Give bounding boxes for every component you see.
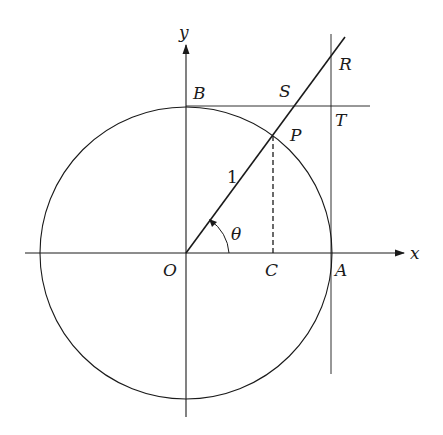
angle-theta-label: θ — [231, 224, 241, 244]
x-axis-label: x — [410, 243, 420, 263]
point-s-label: S — [279, 81, 291, 101]
point-o-label: O — [163, 260, 177, 280]
unit-circle-diagram: y x B S R T P 1 θ O C A — [0, 0, 443, 435]
radius-label: 1 — [227, 167, 238, 187]
point-b-label: B — [192, 83, 206, 103]
point-a-label: A — [333, 260, 347, 280]
y-axis-label: y — [178, 22, 189, 42]
angle-arrow-icon — [209, 219, 217, 227]
point-c-label: C — [265, 260, 278, 280]
point-p-label: P — [289, 125, 302, 145]
point-t-label: T — [335, 110, 348, 130]
diagram-canvas: y x B S R T P 1 θ O C A — [0, 0, 443, 435]
point-r-label: R — [338, 54, 352, 74]
